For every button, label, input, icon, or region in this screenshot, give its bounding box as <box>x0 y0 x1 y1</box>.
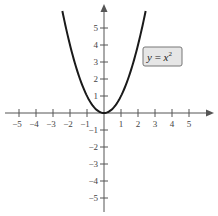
y-axis-arrow-icon <box>101 4 108 12</box>
x-tick-label: −4 <box>29 119 39 129</box>
y-tick-label: −4 <box>88 176 98 186</box>
y-tick-label: 5 <box>94 23 99 33</box>
x-axis-arrow-icon <box>206 110 214 117</box>
y-tick-label: 1 <box>94 91 99 101</box>
x-tick-label: −2 <box>63 119 73 129</box>
y-tick-label: 3 <box>94 57 99 67</box>
y-tick-label: −3 <box>88 159 98 169</box>
axes <box>5 4 214 212</box>
equation-label: y = x2 <box>143 47 182 66</box>
x-tick-label: 1 <box>119 119 124 129</box>
y-tick-label: −2 <box>88 142 98 152</box>
x-tick-label: 2 <box>136 119 141 129</box>
y-tick-label: −5 <box>88 193 98 203</box>
x-tick-label: −3 <box>46 119 56 129</box>
x-tick-label: 5 <box>187 119 192 129</box>
x-tick-label: 3 <box>153 119 158 129</box>
x-tick-label: −5 <box>12 119 22 129</box>
y-tick-label: −1 <box>88 125 98 135</box>
parabola-chart: −5−4−3−2−112345−5−4−3−2−112345 y = x2 <box>0 0 218 216</box>
y-tick-label: 4 <box>94 40 99 50</box>
y-tick-label: 2 <box>94 74 99 84</box>
x-tick-label: 4 <box>170 119 175 129</box>
